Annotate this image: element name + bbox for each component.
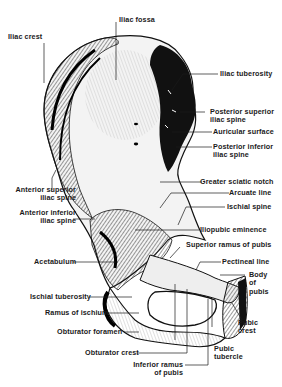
label-iliac-tuberosity: Iliac tuberosity <box>220 70 272 78</box>
label-pubic-crest: Pubic crest <box>238 319 258 336</box>
label-anterior-superior-iliac-spine: Anterior superior iliac spine <box>8 186 76 203</box>
label-pectineal-line: Pectineal line <box>222 258 269 266</box>
label-anterior-inferior-iliac-spine: Anterior inferior iliac spine <box>8 209 76 226</box>
label-iliac-fossa: Iliac fossa <box>119 16 155 24</box>
label-iliopubic-eminence: Iliopubic eminence <box>200 226 267 234</box>
label-pubic-tubercle: Pubic tubercle <box>214 345 243 362</box>
label-iliac-crest: Iliac crest <box>8 33 42 41</box>
label-inferior-ramus-of-pubis: Inferior ramus of pubis <box>128 361 183 378</box>
label-posterior-superior-iliac-spine: Posterior superior iliac spine <box>210 108 274 125</box>
label-obturator-crest: Obturator crest <box>85 349 139 357</box>
label-ischial-tuberosity: Ischial tuberosity <box>30 293 91 301</box>
label-acetabulum: Acetabulum <box>34 258 76 266</box>
label-auricular-surface: Auricular surface <box>213 128 274 136</box>
label-posterior-inferior-iliac-spine: Posterior inferior iliac spine <box>213 143 273 160</box>
label-greater-sciatic-notch: Greater sciatic notch <box>200 178 274 186</box>
label-ramus-of-ischium: Ramus of ischium <box>45 309 109 317</box>
hip-bone-diagram: Iliac crest Iliac fossa Iliac tuberosity… <box>0 0 282 387</box>
label-superior-ramus-of-pubis: Superior ramus of pubis <box>186 241 271 249</box>
label-ischial-spine: Ischial spine <box>227 203 271 211</box>
label-obturator-foramen: Obturator foramen <box>57 328 122 336</box>
label-arcuate-line: Arcuate line <box>229 189 271 197</box>
label-body-of-pubis: Body of pubis <box>249 271 269 296</box>
